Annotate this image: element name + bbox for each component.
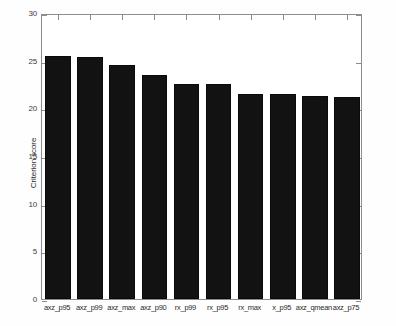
y-tick-label: 25 <box>16 57 37 66</box>
bar <box>45 56 71 299</box>
bar <box>174 84 200 299</box>
y-tick-label: 30 <box>16 9 37 18</box>
y-tick-right <box>356 301 361 302</box>
bar <box>142 75 168 299</box>
y-tick <box>42 301 47 302</box>
bar <box>270 94 296 299</box>
bar <box>206 84 232 299</box>
bar <box>238 94 264 299</box>
bar <box>302 96 328 299</box>
bar-series <box>42 15 361 299</box>
y-tick-label: 15 <box>16 152 37 161</box>
x-tick-label: axz_p75 <box>306 303 386 312</box>
bar <box>77 57 103 299</box>
plot-area <box>41 14 362 300</box>
figure-canvas: Criterion score 051015202530 axz_p95axz_… <box>0 0 396 326</box>
y-tick-label: 20 <box>16 104 37 113</box>
bar <box>334 97 360 299</box>
y-tick-label: 10 <box>16 200 37 209</box>
y-axis-title: Criterion score <box>29 138 38 189</box>
y-tick-label: 5 <box>16 247 37 256</box>
bar <box>109 65 135 299</box>
